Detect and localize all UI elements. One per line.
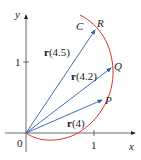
vector-curve-diagram: y x 0 1 1 C R Q P r(4.5) r(4.2) r(4) — [0, 0, 141, 160]
x-tick-label: 1 — [91, 139, 97, 151]
origin-label: 0 — [17, 137, 23, 149]
vector-label-r-4-2: r(4.2) — [71, 70, 97, 83]
point-label-q: Q — [114, 60, 122, 72]
vector-label-r-4-5: r(4.5) — [44, 46, 70, 59]
curve-label-c: C — [76, 20, 84, 32]
vector-label-r-4: r(4) — [67, 117, 85, 130]
y-tick-label: 1 — [15, 56, 21, 68]
x-axis-label: x — [128, 140, 134, 152]
point-label-p: P — [104, 94, 112, 106]
point-label-r: R — [96, 17, 104, 29]
y-axis-label: y — [14, 8, 20, 20]
